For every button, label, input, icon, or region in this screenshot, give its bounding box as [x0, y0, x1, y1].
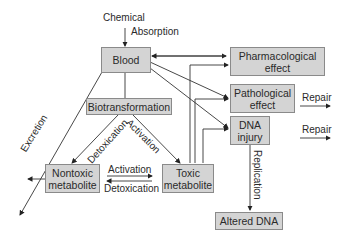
- repair-label-1: Repair: [302, 92, 331, 103]
- node-pharmacological-effect: Pharmacological effect: [230, 47, 325, 76]
- node-toxic-metabolite: Toxic metabolite: [162, 164, 214, 193]
- activation-label-mid: Activation: [108, 164, 151, 175]
- node-pathological-effect: Pathological effect: [230, 84, 295, 113]
- replication-label: Replication: [252, 150, 263, 199]
- node-dna-injury: DNA injury: [230, 116, 270, 145]
- node-altered-dna: Altered DNA: [215, 212, 283, 230]
- detoxication-label-mid: Detoxication: [104, 183, 159, 194]
- node-nontoxic-metabolite: Nontoxic metabolite: [45, 164, 100, 193]
- node-blood: Blood: [101, 47, 151, 73]
- repair-label-2: Repair: [302, 124, 331, 135]
- node-biotransformation: Biotransformation: [86, 98, 172, 115]
- chemical-label: Chemical: [103, 12, 145, 23]
- absorption-label: Absorption: [131, 26, 179, 37]
